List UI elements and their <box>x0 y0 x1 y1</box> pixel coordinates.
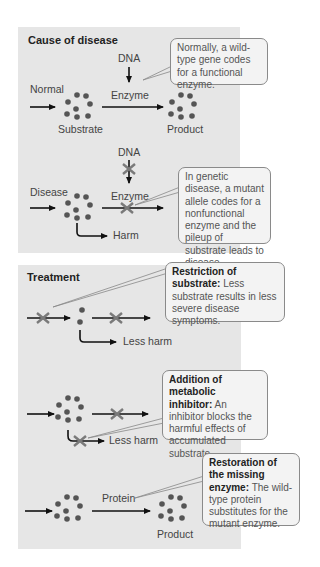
product-label: Product <box>157 528 193 540</box>
callout-restriction: Restriction of substrate: Less substrate… <box>165 262 285 322</box>
disease-label: Disease <box>30 186 68 198</box>
product-label: Product <box>167 123 203 135</box>
callout-inhibitor: Addition of metabolic inhibitor: An inhi… <box>162 370 268 440</box>
dna-label: DNA <box>118 146 140 158</box>
callout-disease: In genetic disease, a mutant allele code… <box>178 167 271 244</box>
normal-label: Normal <box>30 83 64 95</box>
section-title-cause: Cause of disease <box>28 34 118 46</box>
less-harm-label: Less harm <box>123 335 172 347</box>
protein-label: Protein <box>102 492 135 504</box>
less-harm-label: Less harm <box>109 434 158 446</box>
harm-label: Harm <box>113 229 139 241</box>
dna-label: DNA <box>118 52 140 64</box>
substrate-label: Substrate <box>58 123 103 135</box>
callout-restoration: Restoration of the missing enzyme: The w… <box>202 453 300 526</box>
enzyme-label: Enzyme <box>111 190 149 202</box>
enzyme-label: Enzyme <box>111 89 149 101</box>
section-title-treatment: Treatment <box>27 271 80 283</box>
callout-normal: Normally, a wild-type gene codes for a f… <box>170 38 268 85</box>
